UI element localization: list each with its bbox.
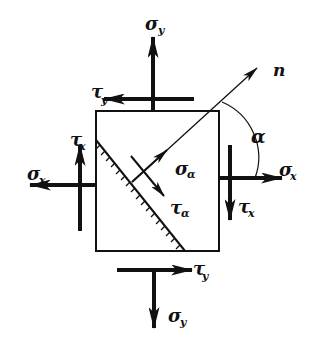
label-n: n (273, 60, 285, 80)
label-tau-y-top: τ y (91, 81, 109, 107)
svg-text:x: x (38, 174, 46, 187)
svg-text:x: x (289, 170, 297, 183)
svg-text:n: n (273, 60, 285, 80)
label-sigma-x-right: σ x (279, 159, 297, 183)
svg-text:y: y (179, 316, 188, 329)
label-sigma-alpha: σ α (175, 158, 196, 181)
label-tau-x-left: τ x (70, 129, 86, 153)
stress-element-diagram: σ y τ y n α τ x σ x σ α σ x τ x τ α τ y … (0, 0, 313, 360)
label-tau-alpha: τ α (170, 197, 190, 220)
svg-text:x: x (78, 140, 86, 153)
label-sigma-y-bottom: σ y (168, 305, 188, 329)
svg-text:α: α (181, 207, 190, 220)
svg-text:y: y (201, 270, 210, 283)
svg-text:x: x (247, 207, 255, 220)
svg-text:α: α (187, 168, 196, 181)
svg-text:α: α (251, 125, 266, 147)
label-tau-y-bottom: τ y (193, 258, 210, 283)
label-sigma-x-left: σ x (27, 163, 46, 187)
label-sigma-y-top: σ y (145, 13, 166, 37)
svg-text:σ: σ (145, 13, 159, 34)
label-tau-x-right: τ x (238, 196, 255, 220)
stress-element-box (96, 111, 219, 251)
inclined-section (96, 140, 185, 251)
label-alpha: α (251, 125, 266, 147)
svg-text:y: y (157, 24, 166, 37)
